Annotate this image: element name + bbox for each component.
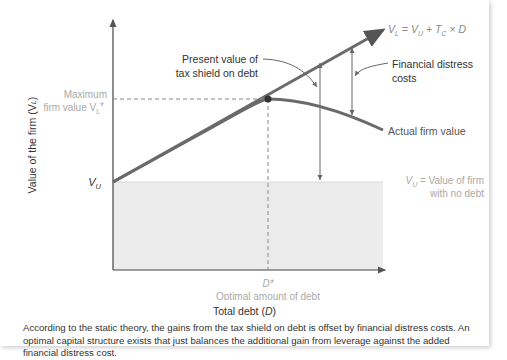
vu-tick-label: VU [88, 176, 101, 191]
pv-label-2: tax shield on debt [176, 67, 258, 79]
max-label-1: Maximum [64, 89, 107, 100]
vl-equation: VL = VU + TC × D [388, 23, 466, 37]
actual-value-label: Actual firm value [388, 125, 466, 137]
unlevered-value-area [113, 182, 383, 270]
x-axis-label: Total debt (D) [0, 305, 489, 317]
actual-firm-value-curve [113, 99, 383, 182]
y-axis-label: Value of the firm (VL) [26, 97, 38, 194]
optimal-point [265, 96, 272, 103]
pv-label-1: Present value of [182, 53, 258, 65]
optimal-label: Optimal amount of debt [216, 291, 320, 300]
vu-equation-2: with no debt [429, 188, 484, 199]
max-label-2: firm value VL* [43, 101, 104, 115]
figure-card: Present value of tax shield on debt Fina… [0, 0, 489, 346]
dstar-label: D* [262, 278, 274, 289]
static-theory-chart: Present value of tax shield on debt Fina… [0, 0, 489, 300]
fd-leader [355, 63, 388, 76]
fd-label-2: costs [392, 72, 417, 84]
fd-label-1: Financial distress [392, 58, 473, 70]
vu-equation-1: VU = Value of firm [405, 175, 484, 188]
figure-caption: According to the static theory, the gain… [23, 322, 473, 360]
